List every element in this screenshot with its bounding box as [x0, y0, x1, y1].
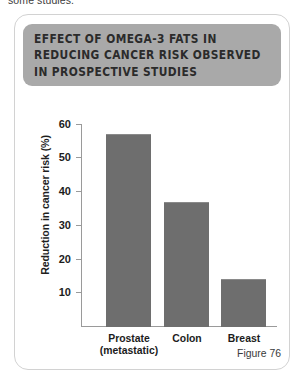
y-axis-tick-40	[76, 191, 82, 192]
y-axis-label-30: 30	[33, 220, 71, 230]
bar-breast[interactable]	[221, 279, 266, 327]
x-axis-label-breast-main: Breast	[228, 333, 260, 344]
y-axis-tick-50	[76, 157, 82, 158]
y-axis-tick-60	[76, 124, 82, 125]
y-axis-title: Reduction in cancer risk (%)	[39, 115, 51, 295]
y-axis-label-60: 60	[33, 119, 71, 129]
page-top-text-fragment: some studies.	[8, 0, 208, 6]
y-axis-label-40: 40	[33, 186, 71, 196]
x-axis-label-prostate-main: Prostate	[108, 333, 150, 344]
y-axis-label-20: 20	[33, 254, 71, 264]
y-axis-tick-20	[76, 259, 82, 260]
figure-caption: Figure 76	[237, 348, 281, 359]
x-axis-label-prostate-sub: (metastatic)	[93, 345, 165, 357]
figure-title-line-2: REDUCING CANCER RISK OBSERVED	[34, 47, 266, 63]
figure-title-line-1: EFFECT OF OMEGA-3 FATS IN	[34, 31, 266, 47]
bar-colon[interactable]	[164, 202, 209, 327]
bar-prostate-metastatic[interactable]	[106, 134, 151, 327]
y-axis-tick-10	[76, 292, 82, 293]
figure-title-line-3: IN PROSPECTIVE STUDIES	[34, 64, 266, 80]
y-axis-label-50: 50	[33, 152, 71, 162]
y-axis-label-10: 10	[33, 287, 71, 297]
y-axis-tick-30	[76, 225, 82, 226]
x-axis-label-breast: Breast	[210, 333, 278, 345]
x-axis-label-colon-main: Colon	[172, 333, 201, 344]
figure-card: EFFECT OF OMEGA-3 FATS IN REDUCING CANCE…	[14, 14, 290, 370]
figure-title-banner: EFFECT OF OMEGA-3 FATS IN REDUCING CANCE…	[23, 24, 281, 86]
bar-chart-plot-area: Reduction in cancer risk (%) 60 50 40 30…	[15, 93, 291, 371]
